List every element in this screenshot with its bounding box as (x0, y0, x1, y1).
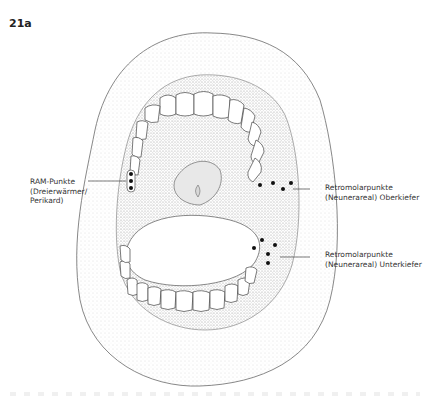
caption-retromolar-lower: Retromolarpunkte (Neunerareal) Unterkief… (325, 250, 422, 269)
caption-ram-points: RAM-Punkte (Dreierwärmer/ Perikard) (30, 177, 87, 206)
ram-points (129, 172, 133, 190)
bottom-bleed-text (10, 392, 420, 396)
caption-retromolar-upper: Retromolarpunkte (Neunerareal) Oberkiefe… (325, 183, 419, 202)
